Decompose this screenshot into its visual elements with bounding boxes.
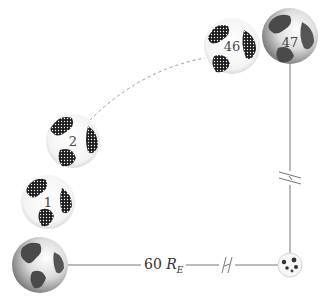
distance-symbol: R [166, 256, 177, 272]
break-mark-icon [219, 257, 235, 273]
break-mark-icon [279, 171, 301, 185]
earth-label-2: 2 [69, 134, 77, 149]
moon [278, 253, 302, 277]
earth-label-47: 47 [282, 35, 299, 50]
earth-globe [12, 237, 68, 293]
distance-subscript: E [177, 265, 184, 275]
earth-label-46: 46 [224, 39, 241, 54]
distance-label: 60 RE [141, 256, 186, 275]
distance-value: 60 [144, 256, 162, 272]
orbit-dashed-arc [90, 58, 205, 120]
earth-label-1: 1 [44, 195, 52, 210]
